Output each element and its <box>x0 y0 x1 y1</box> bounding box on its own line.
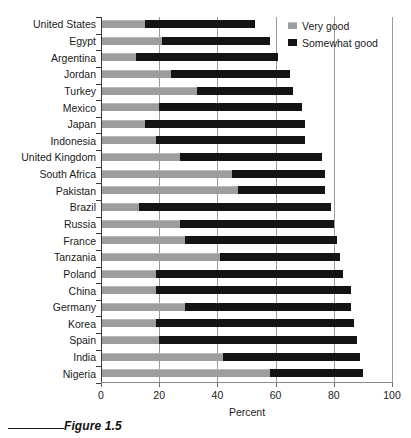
bar-row <box>101 350 392 367</box>
x-axis-line <box>101 382 393 383</box>
bar-segment-somewhat-good <box>171 70 290 78</box>
y-axis-category-label: Germany <box>4 302 96 313</box>
bar-row <box>101 300 392 317</box>
x-axis-tick-label: 60 <box>256 389 296 401</box>
y-axis-tick <box>96 100 101 101</box>
y-axis-tick <box>96 200 101 201</box>
y-axis-category-label: Indonesia <box>4 136 96 147</box>
bar-segment-very-good <box>101 303 185 311</box>
bar-segment-very-good <box>101 170 232 178</box>
y-axis-category-label: Turkey <box>4 86 96 97</box>
y-axis-category-label: Tanzania <box>4 252 96 263</box>
bar-segment-somewhat-good <box>159 336 357 344</box>
figure-caption: Figure 1.5 <box>64 419 122 433</box>
stacked-bar <box>101 336 392 344</box>
gridline-100 <box>392 17 393 383</box>
x-axis-tick-label: 20 <box>139 389 179 401</box>
very-good-swatch <box>288 22 297 29</box>
stacked-bar <box>101 170 392 178</box>
stacked-bar <box>101 103 392 111</box>
stacked-bar <box>101 319 392 327</box>
bar-segment-very-good <box>101 87 197 95</box>
bar-segment-very-good <box>101 286 156 294</box>
stacked-bar <box>101 253 392 261</box>
bar-segment-very-good <box>101 236 185 244</box>
bar-segment-very-good <box>101 136 156 144</box>
bar-segment-very-good <box>101 336 159 344</box>
x-axis-tick <box>101 383 102 387</box>
y-axis-category-label: South Africa <box>4 169 96 180</box>
y-axis-tick <box>96 17 101 18</box>
bar-segment-very-good <box>101 253 220 261</box>
y-axis-category-label: China <box>4 286 96 297</box>
stacked-bar <box>101 120 392 128</box>
bar-segment-very-good <box>101 319 156 327</box>
bar-row <box>101 316 392 333</box>
bar-row <box>101 250 392 267</box>
chart-legend: Very good Somewhat good <box>288 18 406 52</box>
y-axis-category-label: Japan <box>4 119 96 130</box>
stacked-bar <box>101 186 392 194</box>
stacked-bar <box>101 236 392 244</box>
bar-segment-very-good <box>101 186 238 194</box>
bar-segment-very-good <box>101 53 136 61</box>
x-axis-tick-label: 0 <box>81 389 121 401</box>
y-axis-line <box>101 17 102 383</box>
y-axis-category-label: Egypt <box>4 36 96 47</box>
stacked-bar <box>101 53 392 61</box>
y-axis-tick <box>96 150 101 151</box>
y-axis-category-label: Pakistan <box>4 186 96 197</box>
stacked-bar <box>101 286 392 294</box>
legend-item-somewhat-good: Somewhat good <box>288 35 406 50</box>
stacked-bar <box>101 153 392 161</box>
x-axis-tick-label: 100 <box>372 389 411 401</box>
bar-rows <box>101 17 392 383</box>
y-axis-tick <box>96 350 101 351</box>
y-axis-category-label: Mexico <box>4 103 96 114</box>
bar-segment-very-good <box>101 220 180 228</box>
plot-area <box>101 17 392 383</box>
legend-label-somewhat-good: Somewhat good <box>302 37 378 49</box>
bar-segment-somewhat-good <box>223 353 360 361</box>
bar-segment-somewhat-good <box>270 369 363 377</box>
y-axis-category-label: India <box>4 352 96 363</box>
y-axis-category-label: Argentina <box>4 53 96 64</box>
y-axis-category-label: United States <box>4 19 96 30</box>
somewhat-good-swatch <box>288 39 297 46</box>
bar-segment-very-good <box>101 70 171 78</box>
bar-segment-very-good <box>101 353 223 361</box>
bar-segment-somewhat-good <box>185 236 336 244</box>
y-axis-tick <box>96 366 101 367</box>
x-axis-tick <box>276 383 277 387</box>
bar-segment-somewhat-good <box>185 303 351 311</box>
bar-segment-somewhat-good <box>145 20 256 28</box>
y-axis-tick <box>96 250 101 251</box>
y-axis-tick <box>96 333 101 334</box>
y-axis-tick <box>96 117 101 118</box>
y-axis-tick <box>96 300 101 301</box>
stacked-bar <box>101 220 392 228</box>
y-axis-category-label: United Kingdom <box>4 152 96 163</box>
bar-segment-somewhat-good <box>180 220 334 228</box>
bar-row <box>101 183 392 200</box>
y-axis-tick <box>96 167 101 168</box>
stacked-bar <box>101 203 392 211</box>
stacked-bar <box>101 369 392 377</box>
y-axis-category-label: Poland <box>4 269 96 280</box>
y-axis-tick <box>96 283 101 284</box>
bar-row <box>101 50 392 67</box>
y-axis-category-label: Russia <box>4 219 96 230</box>
bar-row <box>101 117 392 134</box>
bar-segment-somewhat-good <box>156 319 354 327</box>
y-axis-tick <box>96 183 101 184</box>
bar-segment-somewhat-good <box>136 53 279 61</box>
bar-segment-very-good <box>101 203 139 211</box>
bar-segment-somewhat-good <box>162 37 270 45</box>
bar-segment-somewhat-good <box>156 136 304 144</box>
x-axis-tick-label: 40 <box>197 389 237 401</box>
y-axis-labels: United StatesEgyptArgentinaJordanTurkeyM… <box>0 17 96 383</box>
y-axis-category-label: Brazil <box>4 202 96 213</box>
y-axis-category-label: France <box>4 236 96 247</box>
bar-segment-very-good <box>101 270 156 278</box>
bar-row <box>101 67 392 84</box>
